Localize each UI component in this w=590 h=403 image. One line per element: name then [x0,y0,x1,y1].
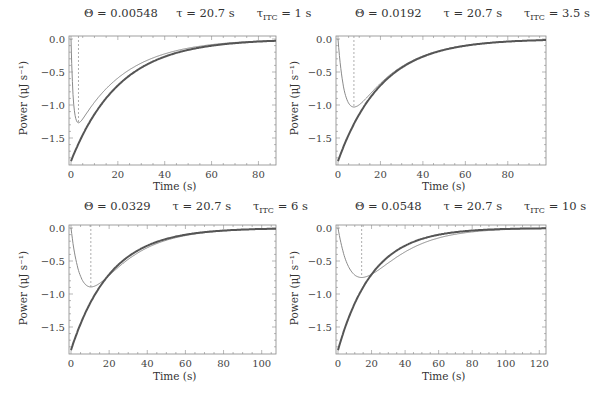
x-tick-label: 20 [103,358,116,369]
plot-area: 0204060801000.0−0.5−1.0−1.5 [0,200,284,400]
x-tick-label: 100 [252,358,271,369]
x-tick-label: 40 [158,169,171,180]
x-tick-label: 80 [252,169,265,180]
y-tick-label: 0.0 [316,223,332,234]
x-tick-label: 0 [68,169,74,180]
y-tick-label: 0.0 [49,223,65,234]
x-tick-label: 60 [179,358,192,369]
chart-panel-bottom-right: Θ = 0.0548 τ = 20.7 s τITC = 10 s Power … [284,200,568,400]
chart-panel-top-right: Θ = 0.0192 τ = 20.7 s τITC = 3.5 s Power… [284,0,568,200]
y-tick-label: 0.0 [316,34,332,45]
plot-frame [69,225,276,354]
x-tick-label: 40 [417,169,430,180]
plot-frame [69,36,276,165]
itc-response-curve [338,39,546,107]
chart-panel-top-left: Θ = 0.00548 τ = 20.7 s τITC = 1 s Power … [0,0,284,200]
chart-panel-bottom-left: Θ = 0.0329 τ = 20.7 s τITC = 6 s Power (… [0,200,284,400]
x-tick-label: 80 [466,358,479,369]
y-tick-label: −1.5 [41,133,65,144]
x-tick-label: 60 [459,169,472,180]
y-tick-label: −1.0 [41,100,65,111]
itc-response-curve [338,228,546,278]
y-tick-label: 0.0 [49,34,65,45]
x-tick-label: 60 [432,358,445,369]
y-tick-label: −0.5 [41,67,65,78]
x-tick-label: 0 [335,169,341,180]
y-tick-label: −1.0 [41,289,65,300]
heat-signal-curve [338,228,546,350]
plot-frame [336,225,546,354]
x-tick-label: 100 [496,358,515,369]
plot-area: 0204060800.0−0.5−1.0−1.5 [0,0,284,200]
itc-response-curve [71,39,276,123]
y-tick-label: −1.0 [308,289,332,300]
y-tick-label: −0.5 [308,256,332,267]
x-tick-label: 40 [399,358,412,369]
x-tick-label: 80 [217,358,230,369]
y-tick-label: −1.5 [308,133,332,144]
y-tick-label: −1.5 [308,322,332,333]
x-tick-label: 0 [335,358,341,369]
heat-signal-curve [338,40,546,161]
x-tick-label: 120 [530,358,549,369]
y-tick-label: −0.5 [41,256,65,267]
x-tick-label: 80 [501,169,514,180]
x-tick-label: 0 [68,358,74,369]
y-tick-label: −1.0 [308,100,332,111]
y-tick-label: −0.5 [308,67,332,78]
x-tick-label: 20 [374,169,387,180]
plot-area: 0204060801001200.0−0.5−1.0−1.5 [284,200,568,400]
y-tick-label: −1.5 [41,322,65,333]
x-tick-label: 20 [365,358,378,369]
x-tick-label: 60 [205,169,218,180]
x-tick-label: 20 [111,169,124,180]
x-tick-label: 40 [141,358,154,369]
heat-signal-curve [71,41,276,161]
heat-signal-curve [71,229,276,350]
plot-area: 0204060800.0−0.5−1.0−1.5 [284,0,568,200]
